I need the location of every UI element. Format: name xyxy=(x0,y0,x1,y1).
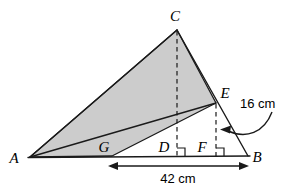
vertex-label-G: G xyxy=(99,139,110,155)
vertex-label-F: F xyxy=(196,139,207,155)
right-angle-at-F-icon xyxy=(216,148,224,156)
vertex-label-D: D xyxy=(158,139,170,155)
dimension-arrow-head-right-icon xyxy=(239,162,249,170)
leader-arrow-head-icon xyxy=(220,126,231,134)
geometry-figure-canvas: A B C E G D F 16 cm 42 cm xyxy=(0,0,294,188)
vertex-label-E: E xyxy=(219,85,229,101)
vertex-label-A: A xyxy=(8,150,19,166)
measure-label-42cm: 42 cm xyxy=(160,171,195,186)
vertex-label-B: B xyxy=(252,149,261,165)
measure-label-16cm: 16 cm xyxy=(240,96,275,111)
vertex-label-C: C xyxy=(170,8,181,24)
right-angle-at-D-icon xyxy=(177,148,185,156)
dimension-arrow-head-left-icon xyxy=(108,162,118,170)
geometry-diagram: A B C E G D F 16 cm 42 cm xyxy=(0,0,294,188)
